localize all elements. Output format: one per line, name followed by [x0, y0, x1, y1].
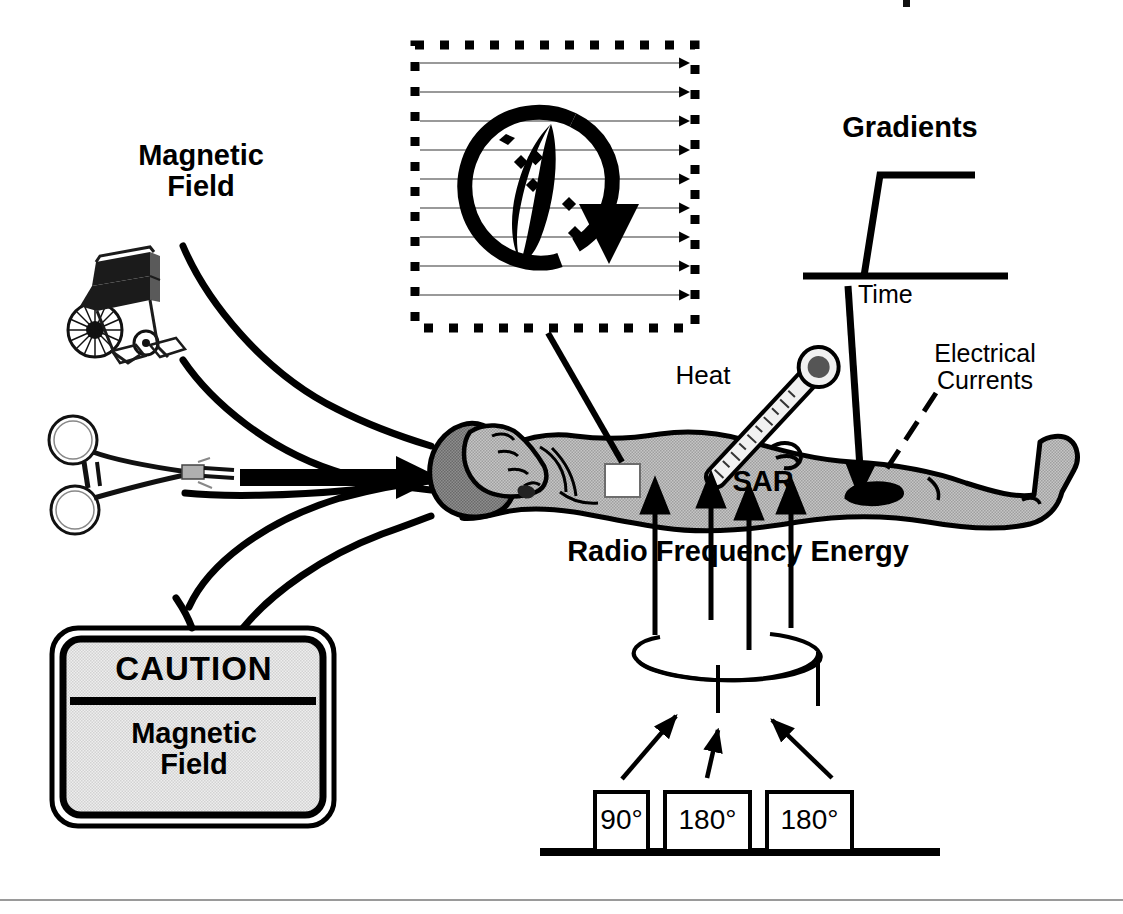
magnetic-field-lines — [183, 246, 432, 598]
label-gradients: Gradients — [820, 112, 1000, 143]
gradient-waveform — [803, 175, 1008, 276]
pulse-label-1: 180° — [665, 805, 750, 835]
rf-transmit-coil — [634, 634, 821, 713]
label-time: Time — [858, 281, 978, 308]
wheelchair-icon — [68, 247, 185, 363]
magnetic-field-lines-lower — [189, 481, 431, 628]
surgical-forceps-icon — [49, 416, 234, 534]
caution-sign — [52, 598, 334, 826]
label-sar: SAR — [718, 466, 808, 497]
gradient-to-body-arrow — [845, 286, 877, 498]
label-electrical-currents: Electrical Currents — [880, 340, 1090, 393]
pulse-label-2: 180° — [767, 805, 852, 835]
pulse-label-0: 90° — [595, 805, 648, 835]
label-heat: Heat — [648, 362, 758, 390]
magnified-tissue-inset — [415, 45, 695, 462]
stray-mark — [903, 0, 910, 7]
electrical-currents-leader — [886, 393, 936, 470]
label-radio-frequency-energy: Radio Frequency Energy — [518, 536, 958, 567]
mri-safety-diagram: Magnetic Field Gradients Time Heat SAR E… — [0, 0, 1123, 914]
pulse-to-coil-arrows — [622, 716, 832, 779]
gradient-pulse-trace — [864, 175, 975, 276]
footer-divider — [0, 899, 1123, 901]
magnified-region-marker — [605, 464, 640, 497]
label-magnetic-field: Magnetic Field — [106, 140, 296, 201]
